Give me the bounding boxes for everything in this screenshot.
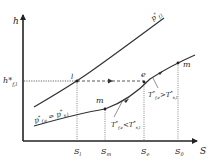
y-axis-label: h (13, 16, 19, 26)
annotation-t-less: T*f,e<T*s,l (111, 120, 141, 130)
point-e (143, 81, 146, 84)
point-l (75, 79, 78, 82)
tick-label-s-l: Sl (74, 147, 81, 157)
tick-label-s-m: Sm (101, 147, 111, 157)
point-e-label: e (141, 70, 146, 79)
tick-label-s-0: S0 (175, 147, 184, 157)
upper-curve-label: p*f,l (149, 9, 164, 24)
x-axis-label: S (200, 146, 206, 156)
point-m-upper (177, 62, 180, 65)
h-level-label: h*f,l (3, 76, 17, 88)
h-s-diagram: h S h*f,l p*f,l p*f,e = p*s,l l m e m T*… (0, 0, 209, 162)
point-m-upper-label: m (183, 60, 191, 69)
upper-curve (34, 18, 164, 107)
lower-curve-label: p*f,e = p*s,l (33, 107, 70, 126)
point-m-lower-label: m (96, 96, 104, 105)
point-m-lower (104, 108, 107, 111)
annotation-pointer-upper (153, 78, 158, 88)
tick-label-s-e: Se (141, 147, 149, 157)
dashed-arrow-head-icon (108, 79, 113, 84)
curve-arrow-icon-2 (158, 71, 163, 75)
point-l-label: l (71, 73, 73, 81)
annotation-t-greater: T*f,e>T*s,l (148, 90, 178, 100)
